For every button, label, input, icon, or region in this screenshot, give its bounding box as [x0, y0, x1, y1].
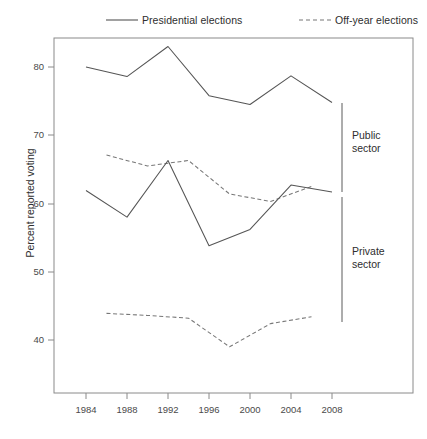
series-line-0 — [86, 47, 332, 105]
chart-figure: Presidential elections Off-year election… — [0, 0, 427, 439]
x-tick-label-1988: 1988 — [110, 404, 144, 415]
y-tick-label-60: 60 — [22, 198, 44, 209]
series-line-2 — [86, 161, 332, 246]
y-tick-label-40: 40 — [22, 334, 44, 345]
chart-plot-area — [0, 0, 427, 439]
x-axis-ticks — [86, 393, 332, 399]
x-tick-label-1992: 1992 — [151, 404, 185, 415]
x-tick-label-2004: 2004 — [274, 404, 308, 415]
data-series-layer — [86, 47, 332, 347]
x-tick-label-2000: 2000 — [233, 404, 267, 415]
series-line-1 — [107, 155, 312, 201]
y-axis-ticks — [48, 67, 54, 340]
y-tick-label-50: 50 — [22, 266, 44, 277]
y-tick-label-80: 80 — [22, 61, 44, 72]
series-line-3 — [107, 313, 312, 346]
y-tick-label-70: 70 — [22, 129, 44, 140]
x-tick-label-1996: 1996 — [192, 404, 226, 415]
x-tick-label-1984: 1984 — [69, 404, 103, 415]
x-tick-label-2008: 2008 — [315, 404, 349, 415]
plot-frame — [54, 38, 413, 393]
